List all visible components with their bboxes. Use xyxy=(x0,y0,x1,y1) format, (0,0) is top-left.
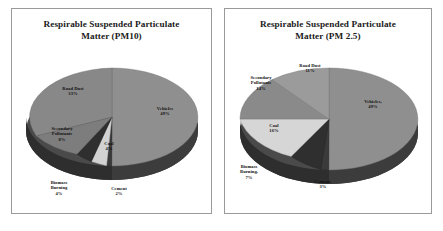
pie-chart-pm10 xyxy=(18,43,206,203)
pie-label-vehicles-pm25: Vehicles, 49% xyxy=(351,99,395,110)
pie-label-secondary-pm25: Secondary Pollutants 14% xyxy=(237,75,285,91)
pie-stage-pm10: Vehicles 49% Cement 2% Coal 4% Biomass B… xyxy=(12,9,211,213)
pie-label-secondary-pm10: Secondary Pollutants 8% xyxy=(38,126,86,142)
pie-stage-pm25: Vehicles, 49% Cement, 3% Biomass Burning… xyxy=(225,9,431,213)
pie-label-roaddust-pm10: Road Dust 33% xyxy=(50,86,96,97)
pie-label-coal-pm25: Coal 16% xyxy=(257,123,291,134)
pie-label-biomass-pm25: Biomass Burning, 7% xyxy=(227,164,271,180)
pie-label-vehicles-pm10: Vehicles 49% xyxy=(144,106,186,117)
pie-label-cement-pm10: Cement 2% xyxy=(98,186,140,197)
pie-label-cement-pm25: Cement, 3% xyxy=(301,179,345,190)
pie-label-roaddust-pm25: Road Dust 11% xyxy=(287,63,333,74)
figure-container: Respirable Suspended Particulate Matter … xyxy=(0,0,443,231)
pie-label-coal-pm10: Coal 4% xyxy=(94,141,124,152)
chart-panel-pm10: Respirable Suspended Particulate Matter … xyxy=(11,8,212,214)
pie-label-biomass-pm10: Biomass Burning 4% xyxy=(35,180,83,196)
chart-panel-pm25: Respirable Suspended Particulate Matter … xyxy=(224,8,432,214)
